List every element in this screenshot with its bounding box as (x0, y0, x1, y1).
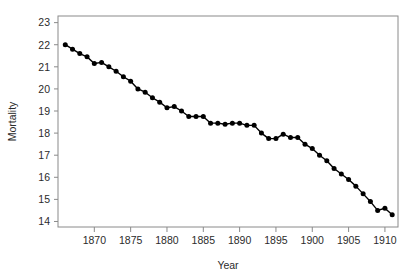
data-point (70, 47, 75, 52)
data-point (339, 171, 344, 176)
data-point (92, 61, 97, 66)
data-point (99, 60, 104, 65)
y-tick-label: 18 (38, 127, 50, 139)
data-point (252, 123, 257, 128)
data-point (237, 121, 242, 126)
data-point (230, 121, 235, 126)
x-tick-label: 1880 (155, 234, 179, 246)
data-point (390, 212, 395, 217)
y-tick-label: 23 (38, 16, 50, 28)
data-point (85, 54, 90, 59)
data-point (143, 90, 148, 95)
data-point (150, 95, 155, 100)
data-point (172, 104, 177, 109)
x-tick-label: 1890 (228, 234, 252, 246)
data-point (375, 208, 380, 213)
data-point (77, 51, 82, 56)
data-point (208, 121, 213, 126)
plot-frame (58, 16, 398, 227)
data-point (186, 114, 191, 119)
data-point (135, 86, 140, 91)
data-point (157, 100, 162, 105)
data-point (244, 123, 249, 128)
x-tick-label: 1895 (264, 234, 288, 246)
x-tick-label: 1885 (192, 234, 216, 246)
data-point (317, 153, 322, 158)
x-axis-ticks: 187018751880188518901895190019051910 (83, 227, 397, 246)
data-point (382, 206, 387, 211)
x-tick-label: 1905 (337, 234, 361, 246)
data-point (266, 136, 271, 141)
data-point (288, 135, 293, 140)
y-tick-label: 19 (38, 105, 50, 117)
data-point (324, 158, 329, 163)
data-point (114, 69, 119, 74)
data-point (332, 166, 337, 171)
data-point (179, 109, 184, 114)
y-tick-label: 14 (38, 215, 50, 227)
data-point (223, 122, 228, 127)
data-point (353, 184, 358, 189)
data-point (128, 79, 133, 84)
mortality-series (63, 42, 395, 217)
data-point (346, 177, 351, 182)
chart-figure: 14151617181920212223 1870187518801885189… (0, 0, 415, 278)
data-point (121, 74, 126, 79)
data-point (201, 114, 206, 119)
x-axis-title: Year (217, 259, 239, 271)
y-axis-ticks: 14151617181920212223 (38, 16, 58, 227)
y-tick-label: 17 (38, 149, 50, 161)
y-tick-label: 21 (38, 61, 50, 73)
x-tick-label: 1875 (119, 234, 143, 246)
data-point (164, 105, 169, 110)
data-point (106, 64, 111, 69)
data-point (281, 132, 286, 137)
data-point (194, 114, 199, 119)
mortality-line-chart: 14151617181920212223 1870187518801885189… (0, 0, 415, 278)
data-point (259, 131, 264, 136)
y-tick-label: 16 (38, 171, 50, 183)
y-tick-label: 22 (38, 39, 50, 51)
data-point (295, 135, 300, 140)
data-point (215, 121, 220, 126)
x-tick-label: 1870 (83, 234, 107, 246)
data-point (361, 191, 366, 196)
y-axis-title: Mortality (6, 101, 18, 141)
x-tick-label: 1900 (301, 234, 325, 246)
data-point (310, 146, 315, 151)
data-point (273, 136, 278, 141)
data-point (368, 199, 373, 204)
x-tick-label: 1910 (373, 234, 397, 246)
y-tick-label: 20 (38, 83, 50, 95)
y-tick-label: 15 (38, 193, 50, 205)
data-point (303, 142, 308, 147)
data-point (63, 42, 68, 47)
